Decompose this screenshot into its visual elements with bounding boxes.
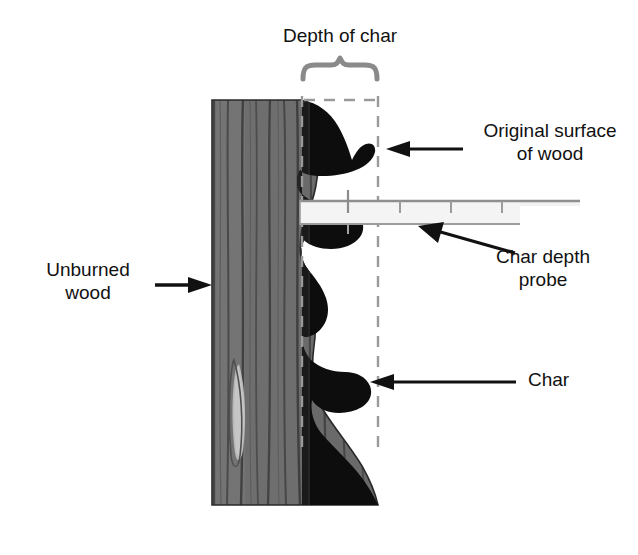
wood-grain-line [214,100,215,505]
depth-of-char-brace [303,58,377,79]
brace-stroke [303,58,377,79]
char-layer [296,95,378,515]
char-depth-diagram: Depth of char Original surface of wood C… [0,0,638,555]
arrow-head [188,277,212,293]
arrow-head [418,222,444,243]
arrow-head [386,141,410,157]
arrow-original-surface [386,141,463,157]
arrow-unburned-wood [155,277,212,293]
label-char-depth-probe: Char depth probe [468,245,618,291]
label-char: Char [528,368,569,391]
probe-head [300,200,520,225]
annotation-arrows [155,141,516,390]
label-depth-of-char: Depth of char [283,24,397,47]
label-unburned-wood: Unburned wood [18,258,158,304]
arrow-head [370,374,394,390]
arrow-char [370,374,516,390]
label-original-surface-of-wood: Original surface of wood [470,119,630,165]
